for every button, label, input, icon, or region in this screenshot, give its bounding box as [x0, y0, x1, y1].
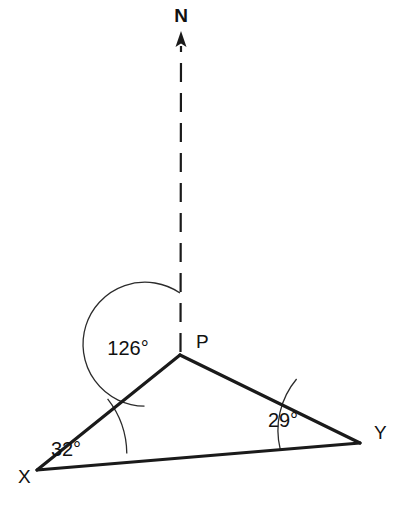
- vertex-label-x: X: [18, 466, 31, 487]
- edge-x-y: [37, 443, 360, 470]
- angle-label-y: 29°: [268, 409, 298, 431]
- vertex-label-y: Y: [374, 422, 387, 443]
- vertex-label-p: P: [196, 331, 209, 352]
- bearing-diagram: N P X Y 126° 32° 29°: [0, 0, 414, 509]
- angle-label-x: 32°: [51, 438, 81, 460]
- compass-north-label: N: [174, 5, 188, 26]
- north-dashed-line: [181, 46, 182, 352]
- north-arrow-icon: [176, 31, 187, 47]
- angle-label-p: 126°: [107, 337, 148, 359]
- diagram-canvas: N P X Y 126° 32° 29°: [0, 0, 414, 509]
